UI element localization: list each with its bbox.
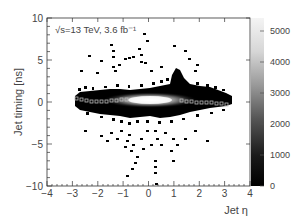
cbar-tick-4000: 4000 xyxy=(270,57,290,67)
x-axis-label: Jet η xyxy=(224,204,248,216)
jet-timing-vs-eta-heatmap: 10 5 0 −5 −10 −4 −3 −2 −1 0 1 2 3 4 Jet … xyxy=(0,0,301,222)
y-axis-label: Jet timing [ns] xyxy=(12,68,24,136)
cbar-tick-1000: 1000 xyxy=(270,150,290,160)
x-tick-neg4: −4 xyxy=(41,188,53,199)
y-tick-0: 0 xyxy=(37,97,43,108)
x-tick-2: 2 xyxy=(197,188,203,199)
colorbar-tick-labels: 0 1000 2000 3000 4000 5000 xyxy=(270,26,290,191)
x-tick-neg3: −3 xyxy=(67,188,79,199)
x-tick-4: 4 xyxy=(247,188,253,199)
y-tick-labels: 10 5 0 −5 −10 xyxy=(26,13,43,192)
x-tick-1: 1 xyxy=(171,188,177,199)
x-tick-neg2: −2 xyxy=(92,188,104,199)
cbar-tick-5000: 5000 xyxy=(270,26,290,36)
cbar-tick-2000: 2000 xyxy=(270,119,290,129)
colorbar xyxy=(251,18,264,186)
y-tick-10: 10 xyxy=(32,13,44,24)
y-tick-5: 5 xyxy=(37,55,43,66)
y-tick-neg5: −5 xyxy=(32,139,44,150)
x-tick-3: 3 xyxy=(222,188,228,199)
x-tick-neg1: −1 xyxy=(117,188,129,199)
cbar-tick-3000: 3000 xyxy=(270,88,290,98)
x-tick-labels: −4 −3 −2 −1 0 1 2 3 4 xyxy=(41,188,253,199)
energy-luminosity-annotation: √s=13 TeV, 3.6 fb⁻¹ xyxy=(55,24,136,35)
cbar-tick-0: 0 xyxy=(270,181,275,191)
x-tick-0: 0 xyxy=(146,188,152,199)
